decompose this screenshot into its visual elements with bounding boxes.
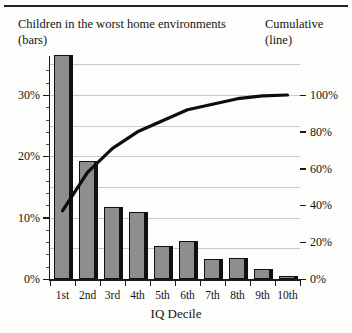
- y-axis-right-tick: [300, 168, 306, 170]
- x-axis-tick: [225, 280, 226, 286]
- x-axis-tick: [125, 280, 126, 286]
- y-axis-right-tick-label: 80%: [310, 126, 332, 138]
- y-axis-left-tick: [43, 217, 49, 219]
- x-axis-tick: [50, 280, 51, 286]
- bar: [79, 161, 95, 279]
- y-axis-left-tick: [43, 95, 49, 97]
- y-axis-left-minor-tick: [46, 107, 49, 108]
- y-axis-right-tick-label: 100%: [310, 89, 338, 101]
- y-axis-left-tick-label: 0%: [0, 273, 40, 285]
- chart-figure: Children in the worst home environments …: [0, 0, 352, 333]
- x-axis-tick: [100, 280, 101, 286]
- y-axis-left: [49, 56, 50, 280]
- y-axis-right-tick: [300, 242, 306, 244]
- bar: [154, 246, 170, 279]
- x-axis-tick: [75, 280, 76, 286]
- y-axis-left-minor-tick: [46, 254, 49, 255]
- gridline: [50, 126, 300, 127]
- y-axis-left-minor-tick: [46, 205, 49, 206]
- y-axis-right-tick-label: 40%: [310, 199, 332, 211]
- y-axis-left-minor-tick: [46, 181, 49, 182]
- y-axis-left-minor-tick: [46, 120, 49, 121]
- x-axis-title: IQ Decile: [0, 306, 352, 322]
- x-axis-tick: [250, 280, 251, 286]
- y-axis-left-minor-tick: [46, 193, 49, 194]
- x-axis-tick: [275, 280, 276, 286]
- y-axis-left-minor-tick: [46, 132, 49, 133]
- gridline: [50, 156, 300, 157]
- bar: [104, 207, 120, 279]
- gridline: [50, 64, 300, 65]
- gridline: [50, 95, 300, 96]
- x-axis-tick: [175, 280, 176, 286]
- y-axis-left-tick: [43, 279, 49, 281]
- y-axis-right-tick-label: 60%: [310, 163, 332, 175]
- x-axis-tick: [150, 280, 151, 286]
- y-axis-left-tick-label: 20%: [0, 150, 40, 162]
- y-axis-right-tick: [300, 131, 306, 133]
- y-axis-right-tick-label: 20%: [310, 236, 332, 248]
- y-axis-left-tick-label: 30%: [0, 89, 40, 101]
- bar: [179, 241, 195, 279]
- x-axis-tick-label: 10th: [273, 289, 303, 301]
- y-axis-left-tick: [43, 156, 49, 158]
- y-axis-left-minor-tick: [46, 169, 49, 170]
- bar: [204, 259, 220, 279]
- y-axis-right-tick: [300, 205, 306, 207]
- y-axis-left-minor-tick: [46, 83, 49, 84]
- bar: [54, 55, 70, 279]
- y-axis-right-tick: [300, 95, 306, 97]
- y-axis-left-minor-tick: [46, 230, 49, 231]
- y-axis-left-tick-label: 10%: [0, 212, 40, 224]
- x-axis-tick: [200, 280, 201, 286]
- y-axis-left-minor-tick: [46, 267, 49, 268]
- y-axis-left-minor-tick: [46, 144, 49, 145]
- bar: [279, 276, 295, 279]
- plot-area: 0%10%20%30% 0%20%40%60%80%100% 1st2nd3rd…: [0, 0, 352, 333]
- y-axis-left-minor-tick: [46, 242, 49, 243]
- y-axis-left-minor-tick: [46, 70, 49, 71]
- y-axis-right-tick-label: 0%: [310, 273, 326, 285]
- bar: [129, 212, 145, 279]
- x-axis-tick: [300, 280, 301, 286]
- bar: [229, 258, 245, 279]
- bar: [254, 269, 270, 279]
